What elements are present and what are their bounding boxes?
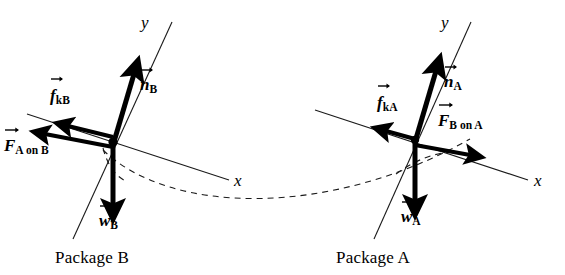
package-a-x-axis-label: x bbox=[534, 172, 542, 189]
package-a-friction-label: fkA bbox=[377, 94, 398, 114]
package-b-group bbox=[27, 22, 229, 239]
physics-free-body-figure: y x nB fkB FA on B wB y x nA fkA FB on A… bbox=[0, 0, 565, 275]
package-b-friction-label: fkB bbox=[50, 87, 70, 107]
package-b-friction-subscript: kB bbox=[56, 94, 70, 106]
package-a-weight-label: wA bbox=[401, 208, 421, 228]
package-b-origin-dot bbox=[108, 137, 117, 146]
package-a-tension-symbol: F bbox=[438, 111, 449, 130]
package-a-tension-label: FB on A bbox=[438, 112, 483, 132]
package-b-normal-subscript: B bbox=[149, 83, 157, 95]
package-a-weight-symbol: w bbox=[401, 207, 412, 226]
package-b-x-axis-label: x bbox=[234, 172, 242, 189]
package-b-x-axis bbox=[27, 114, 229, 180]
package-a-group bbox=[315, 22, 528, 239]
package-b-y-axis-label: y bbox=[141, 14, 149, 31]
package-a-normal-symbol: n bbox=[444, 72, 453, 91]
package-b-tension-symbol: F bbox=[4, 136, 15, 155]
package-b-normal-symbol: n bbox=[140, 75, 149, 94]
package-b-weight-subscript: B bbox=[110, 219, 118, 231]
package-a-friction-subscript: kA bbox=[383, 101, 398, 113]
package-a-weight-subscript: A bbox=[412, 215, 420, 227]
package-b-weight-symbol: w bbox=[99, 211, 110, 230]
package-a-origin-dot bbox=[411, 136, 419, 144]
package-b-normal-label: nB bbox=[140, 76, 157, 96]
package-b-caption: Package B bbox=[55, 249, 129, 266]
diagram-canvas bbox=[0, 0, 565, 275]
package-b-friction-symbol: f bbox=[50, 86, 56, 105]
package-a-caption: Package A bbox=[336, 249, 410, 266]
package-a-normal-subscript: A bbox=[453, 80, 461, 92]
package-b-tension-subscript: A on B bbox=[15, 144, 48, 156]
package-a-friction-symbol: f bbox=[377, 93, 383, 112]
package-b-normal-vector bbox=[113, 74, 134, 145]
package-a-y-axis-label: y bbox=[441, 14, 449, 31]
package-b-weight-label: wB bbox=[99, 212, 118, 232]
package-b-friction-vector bbox=[68, 126, 113, 137]
package-a-tension-subscript: B on A bbox=[449, 119, 482, 131]
package-a-normal-label: nA bbox=[444, 73, 462, 93]
package-b-tension-label: FA on B bbox=[4, 137, 49, 157]
